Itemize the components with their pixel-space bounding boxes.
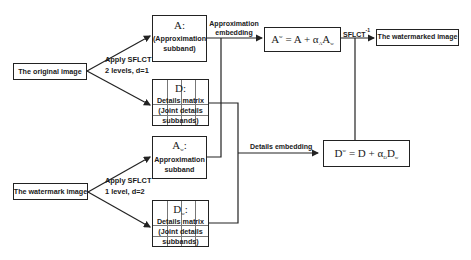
original-image-box: The original image [13,63,87,80]
line-approx-w-up [207,38,221,157]
watermarked-image-box: The watermarked image [376,29,459,46]
apply-sflct-top-line1: Apply SFLCT [105,55,151,64]
apply-sflct-bottom-line2: 1 level, d=2 [105,187,151,196]
formula-details: Dw = D + αDDw [335,147,399,160]
formula-details-box: Dw = D + αDDw [323,140,410,167]
line-details-right [207,103,238,153]
apply-sflct-bottom-line1: Apply SFLCT [105,176,151,185]
details-line2: (Joint details [153,106,208,115]
details-line1: Details matrix [153,96,208,105]
approx-symbol: A: [174,20,185,31]
approx-embedding-line2: embedding [209,29,259,38]
approximation-embedding-label: Approximation embedding [209,20,259,38]
approx-w-symbol: Aw: [172,140,187,152]
details-w-line3: subbands) [153,237,208,246]
approx-w-line1: Approximation [154,155,205,164]
details-w-line1: Details matrix [153,217,208,226]
approx-w-line2: subband [165,165,195,174]
approx-line2: subband) [163,44,195,53]
watermark-image-box: The watermark image [13,183,88,200]
apply-sflct-top-line2: 2 levels, d=1 [105,66,151,75]
details-embedding-label: Details embedding [250,143,312,152]
apply-sflct-top-label: Apply SFLCT 2 levels, d=1 [105,55,151,76]
formula-approx-box: Aw = A + αAAw [264,27,341,52]
formula-approx: Aw = A + αAAw [271,33,334,46]
inverse-sflct-label: SFLCT-1 [343,27,370,40]
details-symbol: D: [153,83,208,94]
arrow-watermark-to-details-w [88,192,150,227]
details-w-symbol: Dw: [153,204,208,216]
details-w-line2: (Joint details [153,227,208,236]
details-w-matrix-box: Dw: Details matrix (Joint details subban… [152,200,209,247]
approximation-subband-box: A: (Approximation subband) [152,15,207,62]
details-matrix-box: D: Details matrix (Joint details subband… [152,79,209,126]
approx-line1: (Approximation [153,34,206,43]
approximation-w-subband-box: Aw: Approximation subband [152,136,207,179]
approx-embedding-line1: Approximation [209,20,259,29]
details-line3: subbands) [153,116,208,125]
line-details-w-right [207,153,238,223]
apply-sflct-bottom-label: Apply SFLCT 1 level, d=2 [105,176,151,197]
arrow-original-to-details [87,71,150,105]
